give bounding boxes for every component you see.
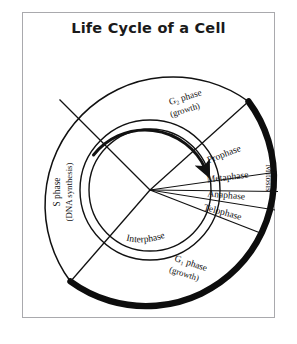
s-phase-sub: (DNA synthesis) [64, 162, 74, 221]
label-s-phase: S phase (DNA synthesis) [52, 162, 74, 221]
label-g2-phase: G₂ phase (growth) [165, 87, 206, 119]
s-phase-name: S phase [52, 178, 62, 207]
label-mitosis: Mitosis [264, 164, 274, 192]
svg-text:Anaphase: Anaphase [207, 187, 246, 201]
outer-circle-thick [71, 102, 274, 307]
svg-text:Prophase: Prophase [205, 142, 242, 165]
label-interphase: Interphase [126, 229, 167, 244]
svg-text:Mitosis: Mitosis [264, 164, 274, 192]
svg-text:(DNA synthesis): (DNA synthesis) [64, 162, 74, 221]
cycle-direction-arrow [94, 130, 206, 168]
cell-cycle-diagram: G₂ phase (growth) S phase (DNA synthesis… [0, 0, 297, 344]
label-metaphase: Metaphase [206, 169, 249, 185]
svg-text:S phase: S phase [52, 178, 62, 207]
label-g1-phase: G₁ phase (growth) [168, 253, 208, 285]
diagram-canvas: Life Cycle of a Cell [0, 0, 297, 344]
label-anaphase: Anaphase [207, 187, 246, 201]
label-prophase: Prophase [205, 142, 242, 165]
svg-text:Metaphase: Metaphase [206, 169, 249, 185]
